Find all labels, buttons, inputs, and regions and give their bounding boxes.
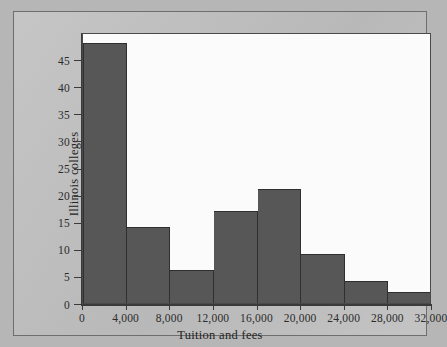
y-axis-tick-label: 0 — [64, 299, 70, 311]
y-axis-tick-label: 10 — [58, 244, 70, 256]
x-axis-tick-label: 24,000 — [327, 312, 360, 324]
y-axis-tick: 20 — [74, 196, 81, 197]
histogram-bar — [127, 227, 171, 303]
x-axis-tick-label: 8,000 — [156, 312, 183, 324]
histogram-bar — [170, 270, 214, 303]
y-axis-tick: 35 — [74, 114, 81, 115]
histogram-bar — [214, 211, 258, 303]
x-axis-title: Tuition and fees — [14, 328, 426, 343]
y-axis-tick: 25 — [74, 169, 81, 170]
y-axis-tick-label: 45 — [58, 55, 70, 67]
y-axis-tick-label: 5 — [64, 271, 70, 283]
x-axis-tick — [213, 304, 214, 310]
x-axis-tick-label: 16,000 — [240, 312, 273, 324]
x-axis-tick-label: 32,000 — [415, 312, 447, 324]
plot-area — [82, 33, 431, 304]
y-axis-tick: 10 — [74, 250, 81, 251]
histogram-bar — [301, 254, 345, 303]
histogram-bar — [345, 281, 389, 303]
histogram-bar — [388, 292, 430, 303]
y-axis-tick-label: 20 — [58, 190, 70, 202]
x-axis-tick — [387, 304, 388, 310]
y-axis-tick: 5 — [74, 277, 81, 278]
x-axis-tick — [82, 304, 83, 310]
x-axis-tick — [257, 304, 258, 310]
y-axis-tick: 15 — [74, 223, 81, 224]
x-axis-tick-label: 0 — [79, 312, 85, 324]
figure-frame: Illinois colleges 051015202530354045 04,… — [13, 11, 427, 336]
y-axis-tick-label: 35 — [58, 109, 70, 121]
x-axis-tick — [431, 304, 432, 310]
y-axis-tick: 45 — [74, 60, 81, 61]
y-axis-line — [81, 33, 82, 305]
y-axis-tick-label: 40 — [58, 82, 70, 94]
histogram-bar — [83, 43, 127, 303]
y-axis-tick: 40 — [74, 87, 81, 88]
x-axis-tick-label: 12,000 — [196, 312, 229, 324]
y-axis-tick: 30 — [74, 141, 81, 142]
x-axis-tick-label: 4,000 — [112, 312, 139, 324]
x-axis-tick — [300, 304, 301, 310]
x-axis-tick — [169, 304, 170, 310]
y-axis-tick-label: 25 — [58, 163, 70, 175]
y-axis-tick-label: 15 — [58, 217, 70, 229]
y-axis-tick-label: 30 — [58, 136, 70, 148]
x-axis-tick — [344, 304, 345, 310]
histogram-bar — [258, 189, 302, 303]
y-axis-tick: 0 — [74, 304, 81, 305]
x-axis-tick-label: 28,000 — [371, 312, 404, 324]
x-axis-tick-label: 20,000 — [284, 312, 317, 324]
bars-container — [83, 34, 430, 303]
x-axis-tick — [126, 304, 127, 310]
